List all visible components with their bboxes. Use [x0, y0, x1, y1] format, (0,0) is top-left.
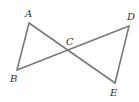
label-e: E: [109, 87, 118, 98]
geometry-diagram: A B C D E: [0, 0, 139, 102]
label-a: A: [24, 8, 32, 19]
label-c: C: [66, 36, 74, 47]
segment-de: [115, 26, 129, 83]
label-b: B: [9, 73, 17, 84]
segment-bd: [17, 26, 129, 70]
label-d: D: [126, 11, 135, 22]
segment-ae: [29, 23, 115, 83]
segment-ab: [17, 23, 29, 70]
